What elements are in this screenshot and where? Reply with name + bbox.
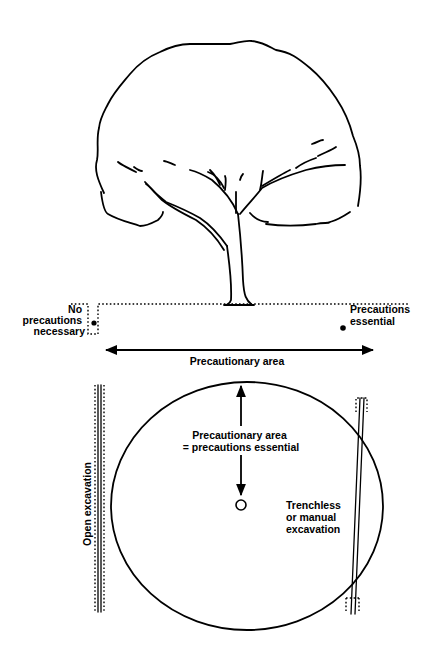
- trenchless-label: Trenchless or manual excavation: [286, 499, 344, 535]
- open-excavation-label: Open excavation: [81, 462, 93, 546]
- tree-crown-outline: [96, 41, 361, 206]
- tree-root-protection-diagram: No precautions necessary Precautions ess…: [0, 0, 425, 660]
- trenchless-excavation-pipe: [346, 398, 367, 614]
- precautionary-area-label: Precautionary area: [190, 355, 285, 367]
- tree-stem-position-icon: [236, 500, 246, 510]
- crown-lower-right: [250, 212, 350, 226]
- tree-trunk-right: [238, 214, 252, 305]
- open-excavation-trench: [95, 385, 104, 612]
- tree-illustration: [96, 41, 361, 305]
- precautions-essential-point-marker: [340, 325, 346, 331]
- no-precautions-label: No precautions necessary: [23, 303, 86, 337]
- centre-precautionary-area-label: Precautionary area = precautions essenti…: [183, 429, 300, 453]
- no-precautions-point-marker: [91, 320, 96, 325]
- tree-trunk-left: [226, 246, 231, 305]
- crown-lower-left: [101, 192, 163, 226]
- branch-right-main: [240, 165, 345, 214]
- precautions-essential-label: Precautions essential: [350, 303, 413, 327]
